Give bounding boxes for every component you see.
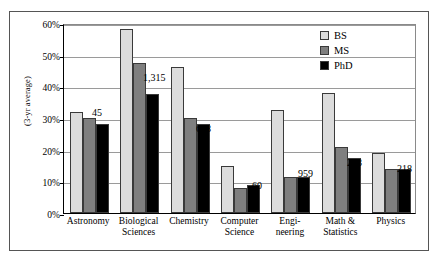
legend-item-ms[interactable]: MS [320,43,392,58]
x-axis-category-label: Physics [366,216,416,227]
bar-group [165,25,215,213]
bar-phd[interactable] [297,177,310,213]
data-label: 1,315 [143,72,166,83]
bar-group [266,25,316,213]
y-tick-label: 10% [43,178,60,188]
legend-swatch-icon [320,31,329,40]
y-tick-label: 60% [43,20,60,30]
x-axis-category-label: Chemistry [164,216,214,227]
data-label: 60 [252,180,262,191]
y-tick-label: 20% [43,147,60,157]
x-axis-category-label: Biological Sciences [113,216,163,238]
data-label: 959 [298,168,313,179]
bar-bs[interactable] [70,112,83,213]
data-label: 218 [397,163,412,174]
y-tick-label: 30% [43,115,60,125]
legend-label: PhD [334,60,353,71]
bar-ms[interactable] [385,169,398,213]
bar-phd[interactable] [398,169,411,213]
data-label: 243 [347,157,362,168]
bar-group [64,25,114,213]
legend: BSMSPhD [320,28,392,73]
x-axis-category-label: Engi- neering [265,216,315,238]
bar-ms[interactable] [83,118,96,213]
bar-bs[interactable] [171,67,184,213]
bar-ms[interactable] [133,63,146,213]
bar-bs[interactable] [221,166,234,214]
legend-item-bs[interactable]: BS [320,28,392,43]
figure-root: (3-yr average) 0%10%20%30%40%50%60% Astr… [0,0,438,264]
y-tick-label: 40% [43,83,60,93]
bar-bs[interactable] [271,110,284,213]
data-label: 658 [196,123,211,134]
bar-ms[interactable] [284,177,297,213]
legend-label: BS [334,30,347,41]
bar-ms[interactable] [335,147,348,214]
y-tick-label: 0% [47,210,60,220]
bar-phd[interactable] [197,124,210,213]
x-axis-category-label: Math & Statistics [315,216,365,238]
y-axis-title: (3-yr average) [22,46,32,156]
bar-bs[interactable] [322,93,335,213]
legend-item-phd[interactable]: PhD [320,58,392,73]
data-label: 45 [92,107,102,118]
bar-ms[interactable] [234,188,247,213]
bar-phd[interactable] [146,94,159,213]
bar-ms[interactable] [184,118,197,213]
legend-swatch-icon [320,46,329,55]
bar-phd[interactable] [96,124,109,213]
x-axis-category-label: Computer Science [214,216,264,238]
bar-bs[interactable] [372,153,385,213]
legend-label: MS [334,45,349,56]
bar-bs[interactable] [120,29,133,213]
bar-group [114,25,164,213]
legend-swatch-icon [320,61,329,70]
x-axis-category-label: Astronomy [63,216,113,227]
y-tick-label: 50% [43,52,60,62]
